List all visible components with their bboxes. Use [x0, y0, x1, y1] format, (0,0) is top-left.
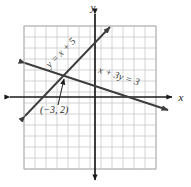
x-axis-label: x	[178, 91, 184, 103]
axes	[10, 14, 172, 180]
coordinate-plane-svg: x y y = x + 5 x + 3y = 3 (−3, 2)	[0, 0, 191, 187]
graph-figure: x y y = x + 5 x + 3y = 3 (−3, 2)	[0, 0, 191, 187]
y-axis-label: y	[90, 1, 96, 13]
intersection-point-label: (−3, 2)	[40, 104, 69, 116]
